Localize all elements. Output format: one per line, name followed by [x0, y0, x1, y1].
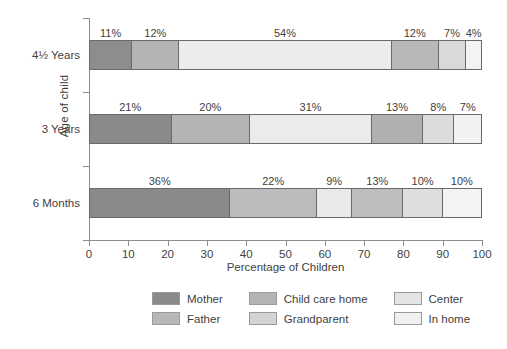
y-tick-mark — [83, 166, 89, 167]
x-tick-mark — [168, 240, 169, 246]
legend-item[interactable]: Child care home — [249, 292, 368, 305]
bar-segment[interactable]: 10% — [443, 188, 482, 218]
bar-segment[interactable]: 10% — [403, 188, 442, 218]
x-tick-label: 50 — [279, 248, 292, 260]
legend-label: Grandparent — [284, 313, 349, 325]
y-tick-mark — [83, 18, 89, 19]
legend-item[interactable]: Center — [394, 292, 471, 305]
bar-segment-label: 21% — [119, 101, 141, 113]
bar-segment[interactable]: 20% — [172, 114, 251, 144]
bar-segment-label: 13% — [386, 101, 408, 113]
stacked-bar[interactable]: 36%22%9%13%10%10%6 Months — [89, 188, 482, 218]
bar-segment[interactable]: 36% — [89, 188, 230, 218]
bar-segment-label: 7% — [460, 101, 476, 113]
x-tick-mark — [325, 240, 326, 246]
bar-segment[interactable]: 31% — [250, 114, 372, 144]
bar-segment[interactable]: 22% — [230, 188, 316, 218]
legend-swatch — [249, 312, 277, 325]
bar-segment[interactable]: 13% — [352, 188, 403, 218]
bar-segment-label: 22% — [262, 175, 284, 187]
bar-segment[interactable]: 12% — [132, 40, 179, 70]
y-axis-title: Age of child — [58, 56, 70, 156]
bar-segment-label: 11% — [100, 27, 121, 39]
bar-segment-label: 31% — [300, 101, 322, 113]
x-tick-label: 70 — [358, 248, 371, 260]
bar-segment-label: 20% — [199, 101, 221, 113]
x-tick-mark — [89, 240, 90, 246]
chart-legend: MotherChild care homeCenterFatherGrandpa… — [152, 292, 470, 325]
bar-segment[interactable]: 12% — [392, 40, 439, 70]
x-tick-label: 60 — [318, 248, 331, 260]
bar-segment[interactable]: 21% — [89, 114, 172, 144]
x-tick-label: 20 — [161, 248, 174, 260]
category-label: 3 Years — [42, 123, 80, 135]
category-label: 6 Months — [33, 197, 80, 209]
stacked-bar[interactable]: 11%12%54%12%7%4%4½ Years — [89, 40, 482, 70]
x-tick-label: 40 — [240, 248, 253, 260]
legend-label: Father — [187, 313, 220, 325]
bar-segment-label: 54% — [274, 27, 296, 39]
bar-segment[interactable]: 11% — [89, 40, 132, 70]
bar-segment[interactable]: 9% — [317, 188, 352, 218]
bar-segment[interactable]: 13% — [372, 114, 423, 144]
stacked-bar-chart: Age of child 0102030405060708090100 11%1… — [0, 0, 507, 349]
bar-segment[interactable]: 4% — [466, 40, 482, 70]
x-tick-label: 0 — [86, 248, 92, 260]
x-tick-mark — [403, 240, 404, 246]
legend-swatch — [152, 312, 180, 325]
stacked-bar[interactable]: 21%20%31%13%8%7%3 Years — [89, 114, 482, 144]
x-axis-title: Percentage of Children — [89, 261, 482, 273]
legend-item[interactable]: Mother — [152, 292, 223, 305]
bar-segment-label: 12% — [144, 27, 166, 39]
legend-label: Mother — [187, 293, 223, 305]
legend-swatch — [394, 312, 422, 325]
legend-label: Child care home — [284, 293, 368, 305]
x-tick-mark — [128, 240, 129, 246]
x-tick-label: 90 — [436, 248, 449, 260]
bar-segment[interactable]: 54% — [179, 40, 391, 70]
x-tick-mark — [286, 240, 287, 246]
bar-segment-label: 13% — [366, 175, 388, 187]
bar-segment[interactable]: 8% — [423, 114, 454, 144]
y-tick-mark — [83, 92, 89, 93]
legend-item[interactable]: Grandparent — [249, 312, 368, 325]
bar-segment-label: 7% — [444, 27, 460, 39]
x-tick-label: 80 — [397, 248, 410, 260]
legend-item[interactable]: In home — [394, 312, 471, 325]
x-tick-mark — [246, 240, 247, 246]
plot-area: 0102030405060708090100 11%12%54%12%7%4%4… — [89, 18, 482, 240]
bar-segment-label: 9% — [326, 175, 342, 187]
legend-swatch — [152, 292, 180, 305]
bar-segment-label: 4% — [466, 27, 482, 39]
legend-label: Center — [429, 293, 464, 305]
bar-segment[interactable]: 7% — [454, 114, 482, 144]
x-tick-mark — [207, 240, 208, 246]
legend-swatch — [394, 292, 422, 305]
bar-segment-label: 12% — [404, 27, 426, 39]
x-tick-label: 10 — [122, 248, 135, 260]
x-tick-label: 100 — [472, 248, 491, 260]
x-tick-mark — [482, 240, 483, 246]
legend-label: In home — [429, 313, 471, 325]
bar-segment-label: 10% — [412, 175, 434, 187]
category-label: 4½ Years — [32, 49, 80, 61]
legend-swatch — [249, 292, 277, 305]
bar-segment-label: 10% — [451, 175, 473, 187]
x-tick-mark — [364, 240, 365, 246]
x-tick-label: 30 — [200, 248, 213, 260]
legend-item[interactable]: Father — [152, 312, 223, 325]
bar-segment-label: 8% — [430, 101, 446, 113]
x-tick-mark — [443, 240, 444, 246]
bar-segment[interactable]: 7% — [439, 40, 467, 70]
bar-segment-label: 36% — [149, 175, 171, 187]
